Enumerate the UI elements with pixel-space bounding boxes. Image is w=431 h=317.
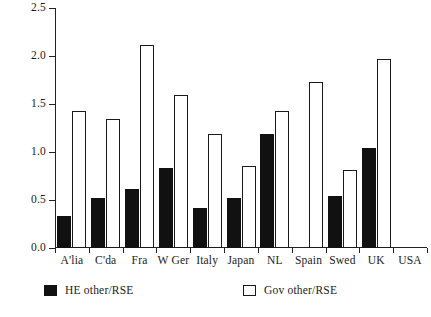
- legend-item-he-other-rse: HE other/RSE: [44, 284, 134, 296]
- x-axis-category-label: Spain: [292, 254, 326, 266]
- bar-he-other-rse: [328, 196, 342, 248]
- bar-he-other-rse: [159, 168, 173, 248]
- bar-he-other-rse: [91, 198, 105, 248]
- legend-swatch-icon-gov: [243, 285, 256, 296]
- bar-gov-other-rse: [309, 82, 323, 248]
- bar-he-other-rse: [362, 148, 376, 248]
- clipped-caption: [0, 305, 431, 317]
- bar-gov-other-rse: [106, 119, 120, 248]
- bar-gov-other-rse: [208, 134, 222, 248]
- x-axis-tick: [224, 248, 225, 253]
- y-axis-tick-label: 2.0: [31, 50, 46, 62]
- bar-gov-other-rse: [377, 59, 391, 248]
- legend-item-gov-other-rse: Gov other/RSE: [243, 284, 337, 296]
- y-axis-tick-label: 1.5: [31, 98, 46, 110]
- x-axis-category-label: NL: [258, 254, 292, 266]
- bar-he-other-rse: [125, 189, 139, 248]
- x-axis-tick: [393, 248, 394, 253]
- x-axis-tick: [359, 248, 360, 253]
- bar-gov-other-rse: [275, 111, 289, 248]
- x-axis-tick: [292, 248, 293, 253]
- y-axis-tick-label: 0.0: [31, 242, 46, 254]
- y-axis-tick-label: 1.0: [31, 146, 46, 158]
- x-axis-tick: [190, 248, 191, 253]
- bar-gov-other-rse: [242, 166, 256, 248]
- chart-legend: HE other/RSE Gov other/RSE: [0, 282, 431, 302]
- bar-gov-other-rse: [343, 170, 357, 248]
- x-axis-tick: [326, 248, 327, 253]
- x-axis-tick: [427, 248, 428, 253]
- bar-he-other-rse: [57, 216, 71, 248]
- x-axis-category-label: W Ger: [156, 254, 190, 266]
- bar-he-other-rse: [260, 134, 274, 248]
- x-axis-category-label: A'lia: [55, 254, 89, 266]
- legend-swatch-icon-he: [44, 285, 57, 296]
- x-axis-tick: [55, 248, 56, 253]
- x-axis-category-label: Swed: [326, 254, 360, 266]
- y-axis-tick-label: 2.5: [31, 2, 46, 14]
- legend-label-gov: Gov other/RSE: [264, 284, 337, 296]
- y-axis-tick-label: 0.5: [31, 194, 46, 206]
- x-axis-tick: [89, 248, 90, 253]
- bar-gov-other-rse: [174, 95, 188, 248]
- bar-he-other-rse: [193, 208, 207, 248]
- x-axis-category-label: Italy: [190, 254, 224, 266]
- x-axis-tick: [123, 248, 124, 253]
- bar-gov-other-rse: [72, 111, 86, 248]
- plot-area: [55, 8, 427, 248]
- bar-he-other-rse: [227, 198, 241, 248]
- x-axis-category-label: C'da: [89, 254, 123, 266]
- x-axis-category-label: Fra: [123, 254, 157, 266]
- bar-gov-other-rse: [140, 45, 154, 248]
- x-axis-category-label: UK: [359, 254, 393, 266]
- x-axis-tick: [156, 248, 157, 253]
- x-axis-category-label: Japan: [224, 254, 258, 266]
- bar-chart-figure: 0.00.51.01.52.02.5 A'liaC'daFraW GerItal…: [0, 0, 431, 317]
- x-axis-category-label: USA: [393, 254, 427, 266]
- legend-label-he: HE other/RSE: [65, 284, 134, 296]
- x-axis-tick: [258, 248, 259, 253]
